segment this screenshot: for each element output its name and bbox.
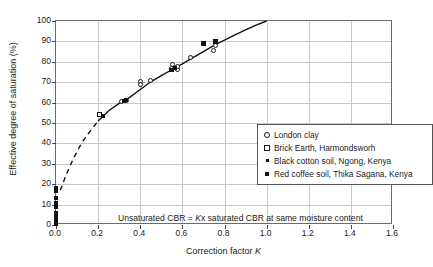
legend-marker-icon <box>262 145 272 151</box>
data-point <box>54 219 58 223</box>
data-point <box>213 39 218 44</box>
y-tick-label: 80 <box>25 56 51 66</box>
data-point <box>54 201 58 205</box>
legend-item-label: Red coffee soil, Thika Sagana, Kenya <box>272 169 413 179</box>
x-tick-label: 0.4 <box>119 228 159 238</box>
legend-marker-glyph <box>265 172 269 176</box>
legend-marker-glyph <box>264 132 270 138</box>
data-point <box>124 98 128 102</box>
data-point <box>54 211 58 215</box>
y-tick-label: 50 <box>25 117 51 127</box>
x-tick-label: 0.6 <box>161 228 201 238</box>
x-tick-label: 1.6 <box>372 228 412 238</box>
y-tick-label: 10 <box>25 199 51 209</box>
x-tick-label: 0.2 <box>77 228 117 238</box>
data-point <box>54 196 58 200</box>
y-tick-label: 90 <box>25 35 51 45</box>
data-point <box>201 41 206 46</box>
legend-item-label: London clay <box>272 130 319 140</box>
x-tick-label: 1.0 <box>246 228 286 238</box>
legend-marker-glyph <box>264 145 270 151</box>
legend-item: Red coffee soil, Thika Sagana, Kenya <box>262 167 428 180</box>
y-tick-label: 70 <box>25 76 51 86</box>
x-tick-label: 1.2 <box>288 228 328 238</box>
legend-item: Brick Earth, Harmondsworh <box>262 141 428 154</box>
plot-area: London clayBrick Earth, HarmondsworhBlac… <box>55 20 392 224</box>
fit-curve-dashed <box>60 121 98 190</box>
x-tick-label: 1.4 <box>330 228 370 238</box>
y-axis-title: Effective degree of saturation (%) <box>8 14 18 204</box>
y-tick-label: 30 <box>25 158 51 168</box>
annotation-suffix: x saturated CBR at same moisture content <box>201 213 363 223</box>
chart-annotation: Unsaturated CBR = Kx saturated CBR at sa… <box>118 213 363 223</box>
y-tick-label: 40 <box>25 137 51 147</box>
data-point <box>54 215 58 219</box>
fit-curve-solid <box>98 21 267 121</box>
legend-item: London clay <box>262 128 428 141</box>
y-tick-label: 20 <box>25 178 51 188</box>
x-axis-title-symbol: K <box>255 246 261 256</box>
data-point <box>148 78 153 83</box>
legend-item-label: Brick Earth, Harmondsworh <box>272 143 375 153</box>
annotation-prefix: Unsaturated CBR = <box>118 213 195 223</box>
fit-curve-layer <box>56 21 393 225</box>
y-tick-label: 60 <box>25 97 51 107</box>
data-point <box>54 186 58 190</box>
data-point <box>138 82 143 87</box>
x-tick-label: 0.8 <box>204 228 244 238</box>
legend-marker-icon <box>262 172 272 176</box>
legend-item: Black cotton soil, Ngong, Kenya <box>262 154 428 167</box>
y-tick-label: 0 <box>25 219 51 229</box>
legend: London clayBrick Earth, HarmondsworhBlac… <box>257 124 433 185</box>
data-point <box>173 66 177 70</box>
data-point <box>101 114 105 118</box>
legend-marker-glyph <box>266 159 269 162</box>
legend-marker-icon <box>262 132 272 138</box>
x-axis-title-prefix: Correction factor <box>186 246 255 256</box>
y-tick-label: 100 <box>25 15 51 25</box>
legend-item-label: Black cotton soil, Ngong, Kenya <box>272 156 391 166</box>
x-axis-title: Correction factor K <box>55 246 392 256</box>
legend-marker-icon <box>262 159 272 162</box>
x-tick-label: 0.0 <box>35 228 75 238</box>
